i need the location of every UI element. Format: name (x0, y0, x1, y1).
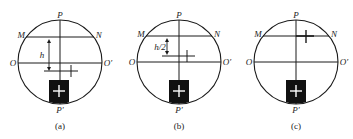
arrow-down-icon (165, 51, 169, 55)
label-m: M (253, 29, 262, 39)
label-p: P (175, 10, 182, 20)
label-p-prime: P′ (174, 105, 183, 115)
label-p-prime: P′ (291, 105, 300, 115)
label-o: O (246, 57, 253, 67)
label-o-prime: O′ (223, 57, 232, 67)
label-o: O (10, 58, 17, 68)
dimension-label: h/2 (154, 42, 166, 52)
panel-b: h/2PP′MNOO′(b) (129, 10, 233, 131)
figure-canvas: hPP′MNOO′(a)h/2PP′MNOO′(b)PP′MNOO′(c) (0, 0, 353, 139)
panel-caption: (a) (55, 121, 65, 131)
telescope-collimation-figure: hPP′MNOO′(a)h/2PP′MNOO′(b)PP′MNOO′(c) (0, 0, 353, 139)
label-n: N (330, 29, 338, 39)
label-n: N (213, 29, 221, 39)
panel-a: hPP′MNOO′(a) (10, 10, 114, 131)
label-m: M (136, 29, 145, 39)
label-m: M (17, 30, 26, 40)
panel-c: PP′MNOO′(c) (246, 10, 350, 131)
label-o-prime: O′ (340, 57, 349, 67)
label-p-prime: P′ (55, 105, 64, 115)
label-n: N (95, 30, 103, 40)
panel-caption: (c) (291, 121, 301, 131)
arrow-up-icon (47, 39, 51, 43)
label-p: P (292, 10, 299, 20)
arrow-down-icon (47, 67, 51, 71)
panel-caption: (b) (174, 121, 185, 131)
label-o-prime: O′ (104, 58, 113, 68)
label-p: P (56, 10, 63, 20)
label-o: O (129, 57, 136, 67)
dimension-label: h (40, 50, 45, 60)
